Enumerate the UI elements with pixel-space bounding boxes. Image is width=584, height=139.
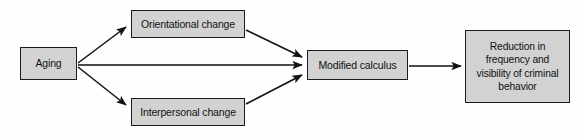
node-aging: Aging (20, 47, 77, 80)
flow-diagram: Aging Orientational change Interpersonal… (0, 0, 584, 139)
edge-orientational-to-modified (246, 30, 302, 57)
edge-interpersonal-to-modified (246, 75, 302, 104)
node-orientational-change-label: Orientational change (132, 18, 244, 31)
node-reduction-outcome: Reduction in frequency and visibility of… (465, 30, 570, 103)
node-aging-label: Aging (21, 57, 76, 70)
edge-aging-to-orientational (78, 27, 126, 63)
node-reduction-outcome-label: Reduction in frequency and visibility of… (466, 40, 569, 94)
node-interpersonal-change-label: Interpersonal change (132, 106, 244, 119)
node-modified-calculus-label: Modified calculus (308, 59, 407, 72)
node-modified-calculus: Modified calculus (307, 50, 408, 80)
node-interpersonal-change: Interpersonal change (131, 98, 245, 126)
edge-aging-to-interpersonal (78, 67, 126, 105)
node-orientational-change: Orientational change (131, 10, 245, 38)
